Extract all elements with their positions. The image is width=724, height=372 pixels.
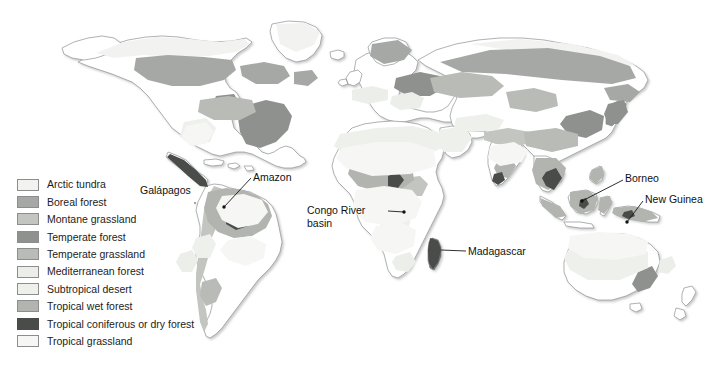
map-label-borneo: Borneo <box>625 172 659 185</box>
legend-label-tropical-dry-forest: Tropical coniferous or dry forest <box>47 319 194 330</box>
legend-item-arctic-tundra: Arctic tundra <box>17 176 222 193</box>
legend-swatch-boreal-forest <box>17 196 39 208</box>
legend-swatch-arctic-tundra <box>17 179 39 191</box>
legend-item-subtropical-desert: Subtropical desert <box>17 280 222 297</box>
land-java <box>564 222 594 228</box>
land-british-isles <box>338 70 362 86</box>
marker-newguinea <box>625 220 628 223</box>
legend-label-temperate-forest: Temperate forest <box>47 232 126 243</box>
legend-item-boreal-forest: Boreal forest <box>17 193 222 210</box>
map-label-amazon: Amazon <box>253 171 292 184</box>
legend-swatch-subtropical-desert <box>17 283 39 295</box>
legend-item-mediterranean-forest: Mediterranean forest <box>17 263 222 280</box>
legend-swatch-tropical-grassland <box>17 335 39 347</box>
legend-label-temperate-grassland: Temperate grassland <box>47 249 145 260</box>
legend-label-montane-grassland: Montane grassland <box>47 214 136 225</box>
marker-amazon <box>222 205 225 208</box>
map-label-galapagos: Galápagos <box>140 184 191 197</box>
map-label-madagascar: Madagascar <box>468 245 526 258</box>
legend-item-montane-grassland: Montane grassland <box>17 211 222 228</box>
figure-caption <box>6 364 718 372</box>
land-caribbean <box>204 159 254 171</box>
land-iceland <box>330 50 344 60</box>
legend-swatch-tropical-dry-forest <box>17 318 39 330</box>
legend-item-temperate-grassland: Temperate grassland <box>17 246 222 263</box>
legend-label-subtropical-desert: Subtropical desert <box>47 284 132 295</box>
legend-label-tropical-wet-forest: Tropical wet forest <box>47 301 132 312</box>
legend-label-boreal-forest: Boreal forest <box>47 197 107 208</box>
biome-legend: Arctic tundra Boreal forest Montane gras… <box>17 176 222 350</box>
figure-root: Arctic tundra Boreal forest Montane gras… <box>0 0 724 372</box>
marker-borneo <box>580 199 583 202</box>
legend-swatch-mediterranean-forest <box>17 266 39 278</box>
land-new-zealand <box>674 286 696 320</box>
land-tasmania <box>630 303 642 312</box>
legend-swatch-temperate-grassland <box>17 248 39 260</box>
legend-label-mediterranean-forest: Mediterranean forest <box>47 266 144 277</box>
marker-congo <box>402 210 405 213</box>
legend-swatch-temperate-forest <box>17 231 39 243</box>
legend-item-tropical-grassland: Tropical grassland <box>17 333 222 350</box>
legend-item-tropical-wet-forest: Tropical wet forest <box>17 298 222 315</box>
legend-swatch-montane-grassland <box>17 213 39 225</box>
legend-swatch-tropical-wet-forest <box>17 300 39 312</box>
map-label-new-guinea: New Guinea <box>645 193 703 206</box>
legend-item-tropical-dry-forest: Tropical coniferous or dry forest <box>17 315 222 332</box>
map-label-congo-river-basin: Congo River basin <box>307 204 381 229</box>
leader-madagascar <box>441 250 466 251</box>
legend-item-temperate-forest: Temperate forest <box>17 228 222 245</box>
legend-label-tropical-grassland: Tropical grassland <box>47 336 132 347</box>
legend-label-arctic-tundra: Arctic tundra <box>47 179 106 190</box>
